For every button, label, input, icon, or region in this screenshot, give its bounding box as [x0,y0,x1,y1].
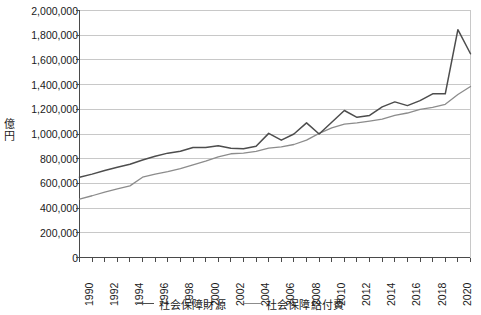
x-axis-tick-labels: 1990199219941996199820002002200420062008… [0,0,481,315]
legend-item: 社会保障給付費 [244,296,344,312]
legend-label: 社会保障給付費 [266,296,344,312]
legend-item: 社会保障財源 [137,296,226,312]
line-chart: 億 円 0200,000400,000600,000800,0001,000,0… [0,0,481,315]
legend-line-swatch [137,303,154,304]
legend-line-swatch [244,303,261,304]
chart-legend: 社会保障財源社会保障給付費 [0,296,481,312]
legend-label: 社会保障財源 [159,296,226,312]
